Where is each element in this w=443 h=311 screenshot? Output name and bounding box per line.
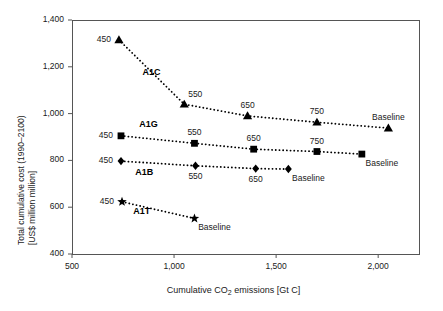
y-tick-label: 1,200 xyxy=(30,61,64,71)
y-tick-label: 600 xyxy=(30,201,64,211)
marker-diamond xyxy=(192,162,199,170)
series-line xyxy=(121,136,362,154)
marker-star xyxy=(117,197,127,206)
point-label: 550 xyxy=(186,127,202,137)
marker-diamond xyxy=(285,165,292,173)
series-label-A1G: A1G xyxy=(139,119,158,129)
point-label: 450 xyxy=(98,196,114,206)
marker-square xyxy=(118,132,125,139)
point-label: 650 xyxy=(240,100,256,110)
point-label: Baseline xyxy=(364,158,400,168)
marker-diamond xyxy=(118,157,125,165)
point-label: 650 xyxy=(248,174,264,184)
point-label: 450 xyxy=(95,34,111,44)
marker-diamond xyxy=(252,164,259,172)
series-label-A1T: A1T xyxy=(133,206,150,216)
chart-figure: Total cumulative cost (1990–2100) [US$ m… xyxy=(0,0,443,311)
x-tick-label: 2,000 xyxy=(358,261,398,271)
x-tick-label: 1,000 xyxy=(154,261,194,271)
marker-square xyxy=(250,146,257,153)
point-label: Baseline xyxy=(370,112,406,122)
x-tick-label: 500 xyxy=(52,261,92,271)
series-label-A1C: A1C xyxy=(142,67,160,77)
marker-square xyxy=(358,151,365,158)
y-tick-label: 400 xyxy=(30,248,64,258)
marker-star xyxy=(190,213,200,222)
x-tick-label: 1,500 xyxy=(256,261,296,271)
series-line xyxy=(119,40,388,128)
marker-triangle xyxy=(384,124,393,132)
marker-triangle xyxy=(243,111,252,119)
series-A1G xyxy=(118,132,366,157)
point-label: 750 xyxy=(309,106,325,116)
point-label: 450 xyxy=(97,155,113,165)
point-label: 450 xyxy=(97,130,113,140)
series-A1T xyxy=(117,197,199,223)
marker-square xyxy=(314,148,321,155)
point-label: 550 xyxy=(187,171,203,181)
point-label: Baseline xyxy=(196,222,232,232)
y-tick-label: 1,000 xyxy=(30,108,64,118)
point-label: 550 xyxy=(187,89,203,99)
marker-triangle xyxy=(114,35,123,43)
y-tick-label: 800 xyxy=(30,154,64,164)
series-A1C xyxy=(114,35,393,131)
marker-triangle xyxy=(180,100,189,108)
y-tick-label: 1,400 xyxy=(30,14,64,24)
point-label: Baseline xyxy=(290,173,326,183)
point-label: 750 xyxy=(309,136,325,146)
marker-square xyxy=(191,140,198,147)
point-label: 650 xyxy=(246,133,262,143)
series-label-A1B: A1B xyxy=(135,167,153,177)
